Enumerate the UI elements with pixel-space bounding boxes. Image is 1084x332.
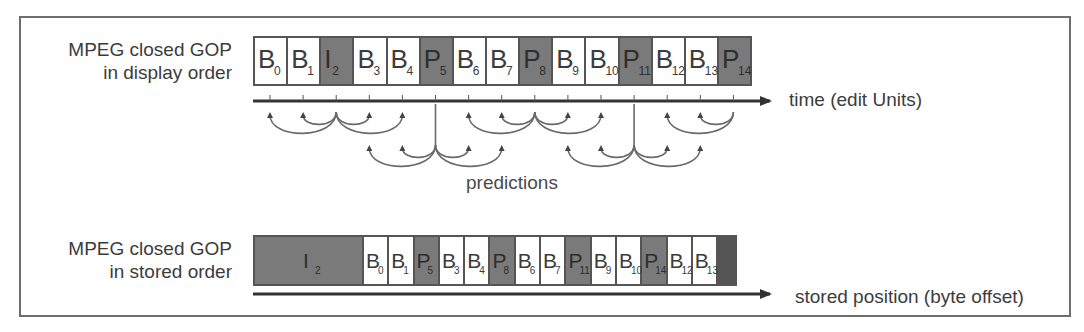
axes-and-predictions — [0, 0, 1084, 332]
